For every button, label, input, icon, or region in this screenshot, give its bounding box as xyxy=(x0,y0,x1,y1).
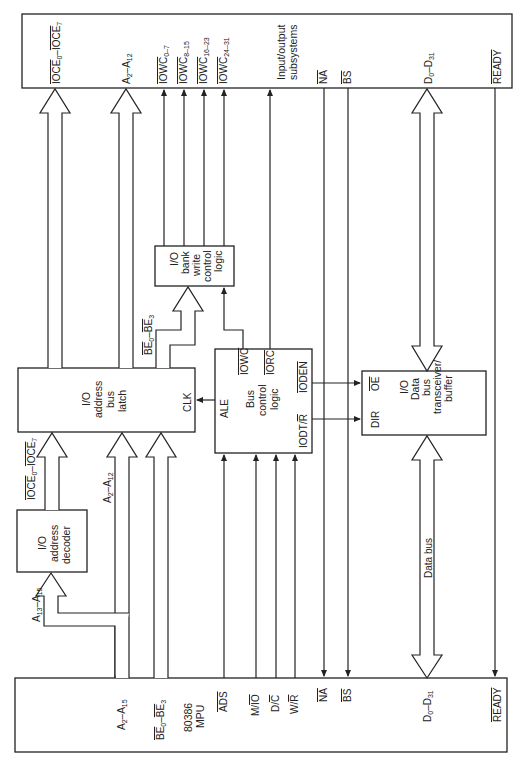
svg-text:80386: 80386 xyxy=(182,703,194,732)
svg-text:IOWC: IOWC xyxy=(239,348,250,375)
mpu-label-mio: M/IO xyxy=(250,694,261,716)
io-subsystems-label: Input/output subsystems xyxy=(275,24,299,80)
svg-text:DIR: DIR xyxy=(370,411,381,428)
svg-text:Data bus: Data bus xyxy=(423,538,434,578)
svg-text:Bus: Bus xyxy=(244,390,256,408)
mid-label-data-bus: Data bus xyxy=(423,538,434,578)
be-bus-latch-to-bank-logic xyxy=(156,287,203,368)
mid-label-a2-a12: A2–A12 xyxy=(102,472,114,503)
svg-text:READY: READY xyxy=(492,687,503,722)
svg-text:A2–A12: A2–A12 xyxy=(102,472,114,503)
transceiver-dir-pin: DIR xyxy=(370,411,381,428)
mpu-block-label: 80386 MPU xyxy=(182,703,206,732)
svg-text:decoder: decoder xyxy=(60,526,72,564)
mpu-label-dc: D/C xyxy=(270,695,281,712)
svg-text:BE0–BE3: BE0–BE3 xyxy=(143,315,155,355)
ioce-bus-to-subsystems xyxy=(40,89,70,368)
svg-text:W/R: W/R xyxy=(289,695,300,714)
svg-text:BS: BS xyxy=(342,688,353,702)
io-interface-diagram: IOCE0–IOCE7 A2–A12 IOWC0–7 IOWC8–15 IOWC… xyxy=(0,0,524,765)
bus-ctrl-ioden-pin: IODEN xyxy=(298,361,309,393)
svg-text:IODT/R: IODT/R xyxy=(298,414,309,448)
a2-a12-bus-to-subsystems xyxy=(111,89,141,368)
mid-label-be-latch: BE0–BE3 xyxy=(143,315,155,355)
mid-label-a13-a15: A13–A15 xyxy=(31,587,43,622)
bus-ctrl-iowc-pin: IOWC xyxy=(239,348,250,375)
mpu-label-ready: READY xyxy=(492,687,503,722)
svg-text:IOCE0–IOCE7: IOCE0–IOCE7 xyxy=(51,22,63,84)
svg-text:logic: logic xyxy=(212,250,224,272)
top-label-bs: BS xyxy=(342,70,353,84)
svg-text:bus: bus xyxy=(104,391,116,408)
svg-text:D/C: D/C xyxy=(270,695,281,712)
svg-text:IORC: IORC xyxy=(265,350,276,375)
transceiver-oe-pin: OE xyxy=(370,376,381,391)
mid-label-ioce-decoder: IOCE0–IOCE7 xyxy=(26,438,38,500)
svg-text:control: control xyxy=(256,384,268,416)
svg-text:subsystems: subsystems xyxy=(287,25,299,80)
svg-text:I/O: I/O xyxy=(36,536,48,550)
mpu-label-bs: BS xyxy=(342,688,353,702)
svg-text:I/O: I/O xyxy=(80,392,92,406)
bus-ctrl-ale-pin: ALE xyxy=(219,399,230,418)
svg-text:M/IO: M/IO xyxy=(250,694,261,716)
svg-text:BS: BS xyxy=(342,70,353,84)
svg-text:ADS: ADS xyxy=(218,691,229,712)
mpu-label-ads: ADS xyxy=(218,691,229,712)
svg-text:BE0–BE3: BE0–BE3 xyxy=(155,700,167,740)
be-bus-to-latch xyxy=(146,433,176,678)
io-subsystems-block xyxy=(22,14,512,88)
mpu-label-na: NA xyxy=(318,688,329,702)
svg-text:A13–A15: A13–A15 xyxy=(31,587,43,622)
svg-text:buffer: buffer xyxy=(442,375,454,402)
latch-clk-pin: CLK xyxy=(182,392,193,412)
bus-ctrl-iorc-pin: IORC xyxy=(265,350,276,375)
top-label-ioce: IOCE0–IOCE7 xyxy=(51,22,63,84)
svg-text:NA: NA xyxy=(318,70,329,84)
bus-ctrl-iodt-r-pin: IODT/R xyxy=(298,414,309,448)
svg-text:NA: NA xyxy=(318,688,329,702)
mpu-label-be: BE0–BE3 xyxy=(155,700,167,740)
svg-text:OE: OE xyxy=(370,376,381,391)
data-bus-top-bidirectional xyxy=(412,89,442,371)
svg-text:address: address xyxy=(48,525,60,562)
svg-text:IOCE0–IOCE7: IOCE0–IOCE7 xyxy=(26,438,38,500)
svg-text:READY: READY xyxy=(492,49,503,84)
svg-text:CLK: CLK xyxy=(182,392,193,412)
svg-text:logic: logic xyxy=(268,388,280,410)
ioce-bus-decoder-to-latch xyxy=(37,433,67,510)
svg-text:address: address xyxy=(92,381,104,418)
svg-text:MPU: MPU xyxy=(194,705,206,728)
top-label-ready: READY xyxy=(492,49,503,84)
top-label-na: NA xyxy=(318,70,329,84)
svg-text:Input/output: Input/output xyxy=(275,24,287,80)
svg-text:IODEN: IODEN xyxy=(298,361,309,393)
iowc-to-bank-logic-wire xyxy=(224,288,243,349)
svg-text:latch: latch xyxy=(116,390,128,412)
mpu-label-wr: W/R xyxy=(289,695,300,714)
svg-text:ALE: ALE xyxy=(219,399,230,418)
